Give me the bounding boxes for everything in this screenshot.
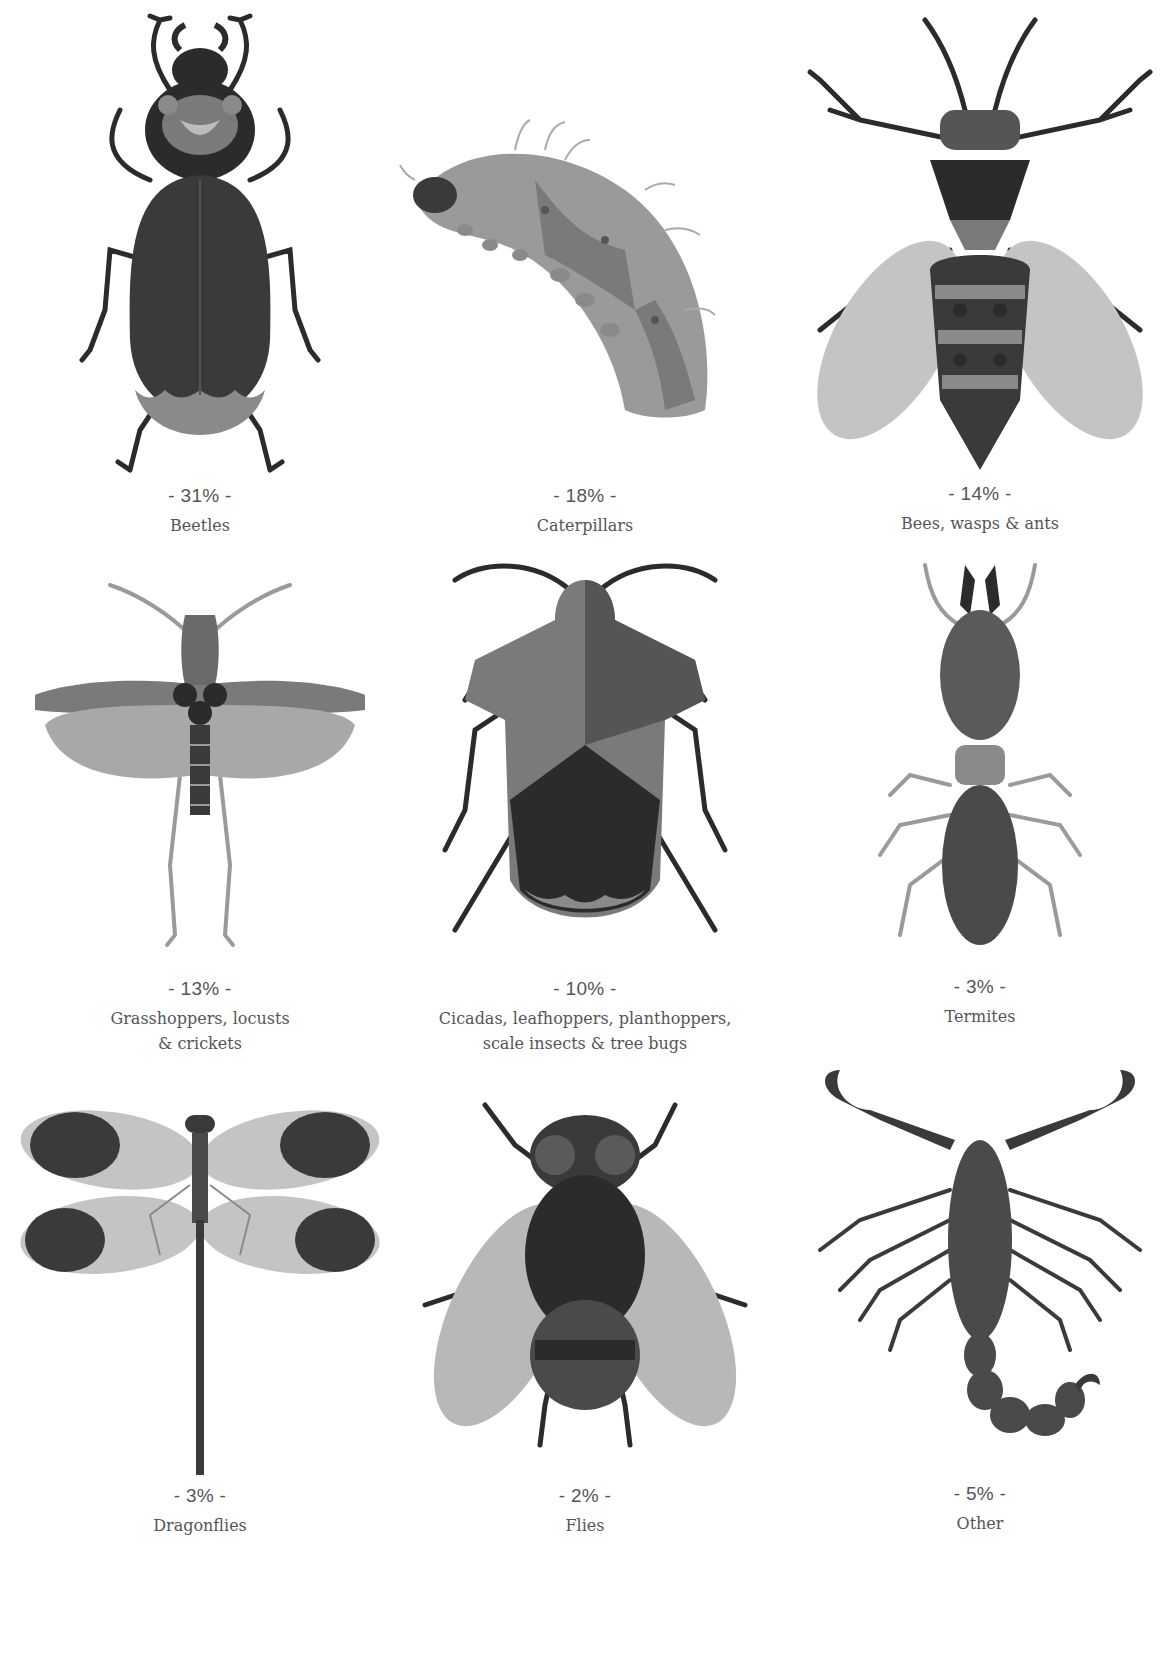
- caterpillar-icon: [395, 80, 775, 440]
- shield-bug-icon: [395, 550, 775, 950]
- percentage-value: - 3% -: [790, 976, 1170, 998]
- category-label: Flies: [395, 1513, 775, 1538]
- percentage-value: - 2% -: [395, 1485, 775, 1507]
- category-label-line2: & crickets: [158, 1034, 242, 1053]
- category-label: Other: [790, 1511, 1170, 1536]
- category-label-line2: scale insects & tree bugs: [483, 1034, 688, 1053]
- dragonfly-icon: [10, 1095, 390, 1475]
- percentage-value: - 18% -: [395, 485, 775, 507]
- category-label-line1: Cicadas, leafhoppers, planthoppers,: [439, 1009, 731, 1028]
- category-label: Bees, wasps & ants: [790, 511, 1170, 536]
- category-label: Cicadas, leafhoppers, planthoppers, scal…: [395, 1006, 775, 1056]
- wasp-icon: [790, 10, 1170, 470]
- percentage-value: - 31% -: [10, 485, 390, 507]
- category-label-line1: Grasshoppers, locusts: [110, 1009, 289, 1028]
- percentage-value: - 10% -: [395, 978, 775, 1000]
- termite-icon: [790, 555, 1170, 955]
- percentage-value: - 5% -: [790, 1483, 1170, 1505]
- category-label: Grasshoppers, locusts & crickets: [10, 1006, 390, 1056]
- category-label: Caterpillars: [395, 513, 775, 538]
- category-label: Beetles: [10, 513, 390, 538]
- percentage-value: - 13% -: [10, 978, 390, 1000]
- percentage-value: - 3% -: [10, 1485, 390, 1507]
- category-label: Dragonflies: [10, 1513, 390, 1538]
- category-label: Termites: [790, 1004, 1170, 1029]
- percentage-value: - 14% -: [790, 483, 1170, 505]
- beetle-icon: [10, 10, 390, 480]
- grasshopper-icon: [10, 575, 390, 955]
- scorpion-icon: [790, 1070, 1170, 1450]
- fly-icon: [395, 1085, 775, 1465]
